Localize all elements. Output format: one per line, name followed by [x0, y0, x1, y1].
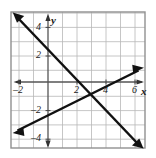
x-tick-label-neg2: –2	[13, 85, 23, 95]
y-tick-label-2: 2	[36, 50, 41, 60]
coordinate-plane-figure: 4 2 –2 –4 –2 2 4 6 y x	[0, 0, 156, 158]
graph-canvas	[0, 0, 156, 158]
x-tick-label-6: 6	[132, 85, 137, 95]
x-tick-label-4: 4	[103, 85, 108, 95]
y-axis-label: y	[51, 15, 56, 26]
x-tick-label-2: 2	[74, 85, 79, 95]
y-tick-label-neg2: –2	[31, 105, 41, 115]
y-tick-label-neg4: –4	[31, 133, 41, 143]
x-axis-label: x	[141, 86, 147, 97]
y-tick-label-4: 4	[36, 22, 41, 32]
